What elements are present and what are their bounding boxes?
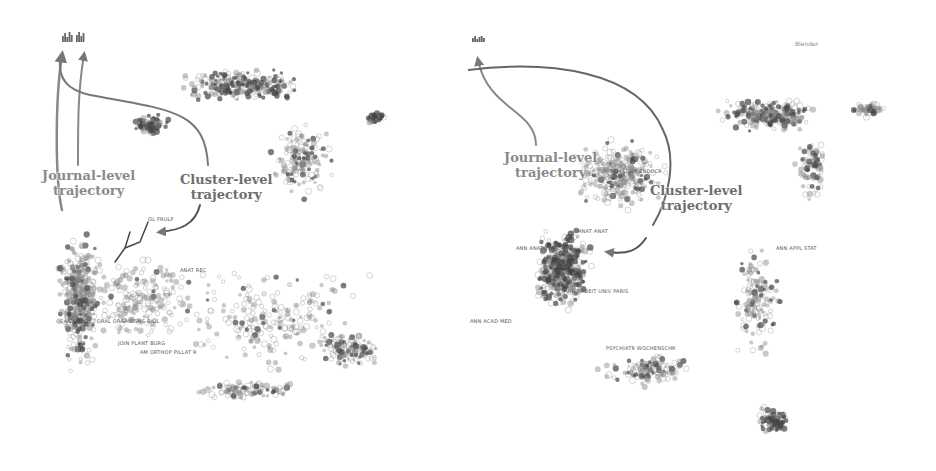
map-label: PSYCHIATR WOCHENSCHR bbox=[606, 345, 676, 351]
journal-trajectory-label: Journal-level trajectory bbox=[42, 168, 135, 198]
map-label: ANAT ANAT bbox=[578, 228, 608, 234]
corner-label: Blender bbox=[795, 40, 818, 47]
map-label: ANAT REC bbox=[180, 267, 207, 273]
right-scatter-map bbox=[468, 0, 936, 471]
map-label: OL FRULP bbox=[148, 216, 174, 222]
map-label: ANN ANATOMY CAR bbox=[516, 245, 568, 251]
map-label: SEM LUMP ENDOCR bbox=[610, 168, 662, 174]
map-label: JOIN PLANT BURG bbox=[118, 340, 165, 346]
map-label: AM ORTHOP PILLAT R bbox=[140, 349, 197, 355]
left-map-panel: Journal-level trajectory Cluster-level t… bbox=[0, 0, 468, 471]
map-label: ANN ACAD MED bbox=[470, 318, 512, 324]
cluster-trajectory-label: Cluster-level trajectory bbox=[180, 172, 273, 202]
map-label: ANN ARBEIT UNIV PARIS bbox=[564, 288, 628, 294]
right-map-panel: Journal-level trajectory Cluster-level t… bbox=[468, 0, 936, 471]
map-label: ANN APPL STAT bbox=[776, 245, 817, 251]
journal-trajectory-label: Journal-level trajectory bbox=[504, 150, 597, 180]
left-scatter-map bbox=[0, 0, 468, 471]
cluster-trajectory-label: Cluster-level trajectory bbox=[650, 183, 743, 213]
map-label: CAN J ZOOL / ORAL ORGANISMS BIOL bbox=[60, 318, 159, 324]
